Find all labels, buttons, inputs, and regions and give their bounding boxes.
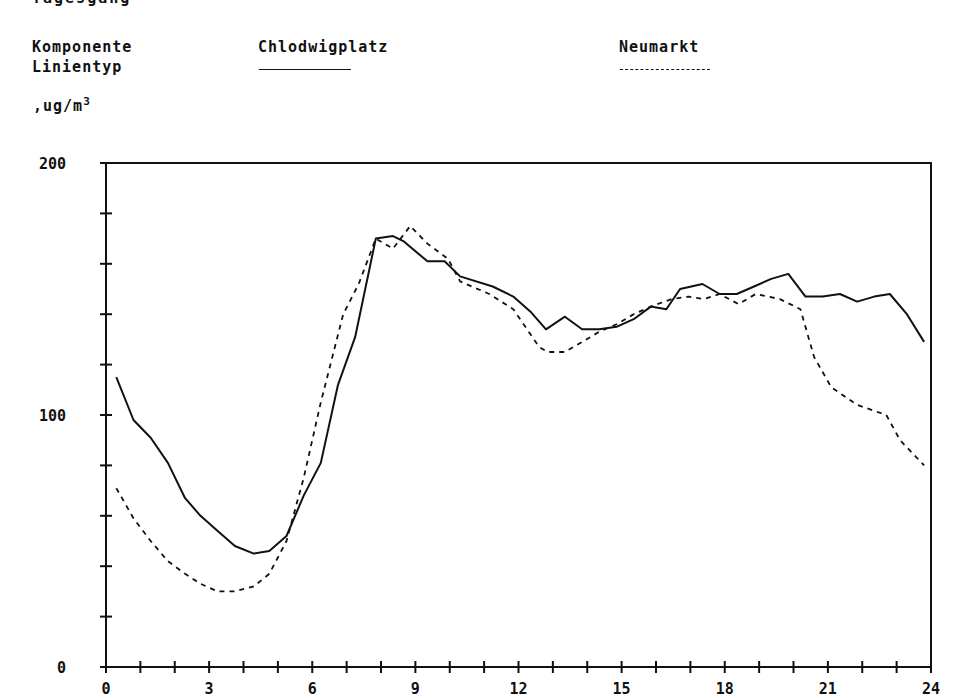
x-tick-label: 3 bbox=[205, 680, 214, 698]
series-line-chlodwigplatz bbox=[116, 236, 924, 553]
x-tick-label: 12 bbox=[509, 680, 527, 698]
series-line-neumarkt bbox=[116, 226, 924, 591]
line-chart: 036912151821240100200 bbox=[0, 0, 970, 698]
chart-series bbox=[116, 226, 924, 591]
x-tick-label: 15 bbox=[613, 680, 631, 698]
x-tick-label: 21 bbox=[819, 680, 837, 698]
y-tick-label: 100 bbox=[39, 407, 66, 425]
x-tick-label: 0 bbox=[101, 680, 110, 698]
chart-ticks bbox=[100, 163, 931, 673]
x-tick-label: 6 bbox=[308, 680, 317, 698]
y-tick-label: 0 bbox=[57, 659, 66, 677]
x-tick-label: 9 bbox=[411, 680, 420, 698]
x-tick-label: 24 bbox=[922, 680, 940, 698]
chart-tick-labels: 036912151821240100200 bbox=[39, 155, 940, 698]
y-tick-label: 200 bbox=[39, 155, 66, 173]
x-tick-label: 18 bbox=[716, 680, 734, 698]
